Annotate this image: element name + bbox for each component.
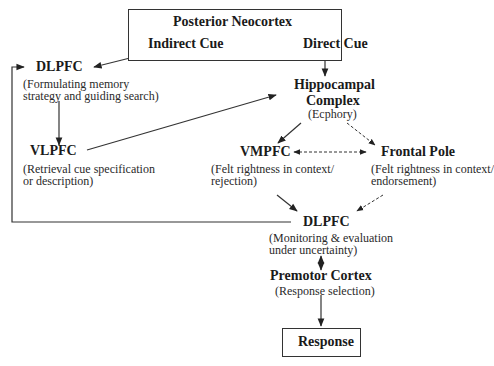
frontal-pole-sub2: endorsement) [371,174,436,188]
premotor-sub: (Response selection) [275,284,375,298]
vmpfc-sub2: rejection) [211,174,257,188]
edge-hippocampal-to-frontal-pole [347,123,375,145]
frontal-pole-title: Frontal Pole [381,144,455,160]
premotor-title: Premotor Cortex [270,268,372,284]
dlpfc-top-title: DLPFC [36,59,83,75]
edge-vmpfc-to-dlpfc-bottom [277,195,297,211]
posterior-neocortex-title: Posterior Neocortex [173,14,292,30]
vlpfc-title: VLPFC [30,143,77,159]
dlpfc-top-sub2: strategy and guiding search) [23,89,159,103]
vlpfc-sub2: or description) [23,174,93,188]
edge-vlpfc-to-hippocampal [87,95,276,150]
response-title: Response [298,334,354,350]
edge-indirect-to-dlpfc [94,58,130,67]
hippocampal-title-1: Hippocampal [294,77,375,93]
vmpfc-title: VMPFC [240,144,291,160]
edge-hippocampal-to-vmpfc [278,123,301,143]
direct-cue-label: Direct Cue [303,36,368,52]
edge-frontal-pole-to-dlpfc-bottom [357,195,383,211]
dlpfc-bottom-title: DLPFC [303,214,350,230]
indirect-cue-label: Indirect Cue [148,36,224,52]
dlpfc-bottom-sub2: under uncertainty) [269,243,357,257]
hippocampal-sub: (Ecphory) [308,107,357,121]
